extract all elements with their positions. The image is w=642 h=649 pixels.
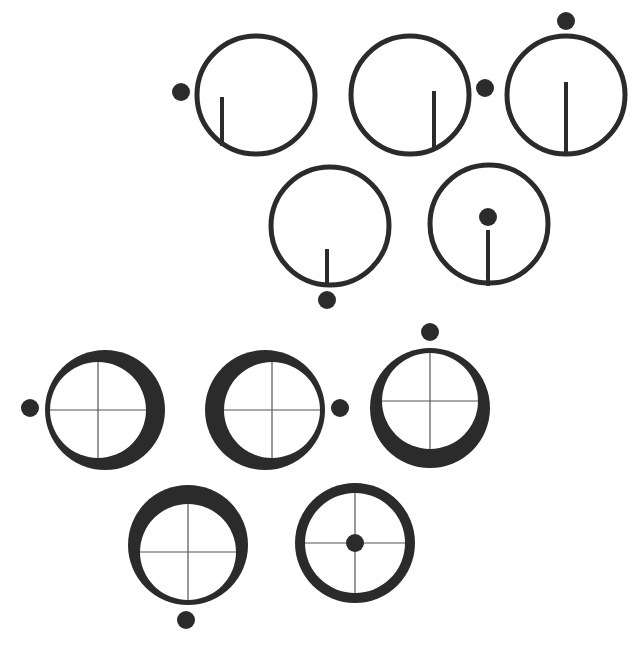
crescent-ring-figure-b1: [21, 350, 165, 470]
dot-marker: [479, 208, 497, 226]
thin-ring-figure-t5: [430, 165, 548, 286]
thin-ring-figure-t1: [172, 36, 315, 154]
dot-marker: [421, 323, 439, 341]
diagram-canvas: [0, 0, 642, 649]
ring-circle: [351, 36, 469, 154]
dot-marker: [476, 79, 494, 97]
thin-ring-figure-t3: [507, 12, 625, 154]
crescent-ring-figure-b4: [128, 485, 248, 629]
thin-ring-figure-t4: [271, 167, 389, 309]
dot-marker: [318, 291, 336, 309]
crescent-ring-figure-b3: [370, 323, 490, 468]
thin-ring-group: [172, 12, 625, 309]
dot-marker: [177, 611, 195, 629]
thin-ring-figure-t2: [351, 36, 494, 154]
dot-marker: [346, 534, 364, 552]
ring-circle: [197, 36, 315, 154]
dot-marker: [331, 399, 349, 417]
ring-circle: [271, 167, 389, 285]
dot-marker: [172, 83, 190, 101]
crescent-ring-figure-b2: [205, 350, 349, 470]
crescent-ring-group: [21, 323, 490, 629]
crescent-ring-figure-b5: [295, 483, 415, 603]
dot-marker: [557, 12, 575, 30]
dot-marker: [21, 399, 39, 417]
